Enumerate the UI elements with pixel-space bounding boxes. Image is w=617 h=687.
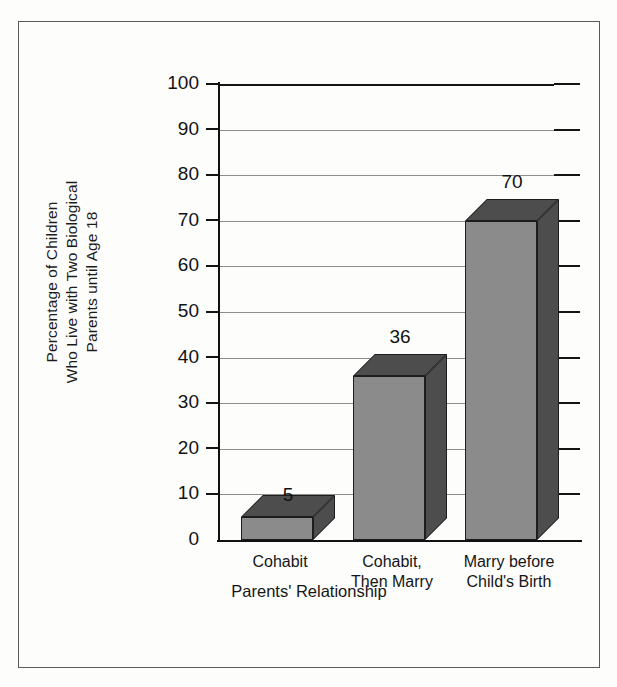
y-tick-label-60: 60 <box>178 254 199 276</box>
bar-side-face <box>425 354 447 540</box>
x-axis-line <box>217 540 582 542</box>
bar-front-face <box>241 517 313 540</box>
x-category-line: Cohabit <box>225 552 335 572</box>
chart-frame: Percentage of Children Who Live with Two… <box>18 21 600 668</box>
y-tick-label-30: 30 <box>178 391 199 413</box>
gridline <box>219 84 554 86</box>
chart-page: Percentage of Children Who Live with Two… <box>0 0 617 687</box>
bar-marry-before-childs-birth[interactable] <box>465 221 537 540</box>
bar-value-label-marry-before-childs-birth: 70 <box>465 171 559 193</box>
y-tick-label-70: 70 <box>178 209 199 231</box>
y-tick-label-0: 0 <box>188 528 199 550</box>
y-tick-mark-right <box>554 129 580 131</box>
y-tick-label-90: 90 <box>178 118 199 140</box>
x-category-label-cohabit: Cohabit <box>225 552 335 572</box>
x-category-line: Cohabit, <box>337 552 447 572</box>
bar-value-label-cohabit-then-marry: 36 <box>353 326 447 348</box>
bar-side-face <box>537 199 559 540</box>
y-tick-mark-right <box>554 83 580 85</box>
y-axis-title-line-2: Who Live with Two Biological <box>62 181 82 383</box>
y-axis-title-line-1: Percentage of Children <box>42 202 62 363</box>
y-tick-label-10: 10 <box>178 482 199 504</box>
y-tick-label-20: 20 <box>178 437 199 459</box>
y-tick-label-100: 100 <box>167 72 199 94</box>
plot-area: 100 90 80 70 <box>219 84 554 540</box>
y-axis-line <box>218 82 220 542</box>
bar-front-face <box>465 221 537 540</box>
bar-cohabit[interactable] <box>241 517 313 540</box>
y-tick-label-80: 80 <box>178 163 199 185</box>
bar-value-label-cohabit: 5 <box>241 484 335 506</box>
bar-cohabit-then-marry[interactable] <box>353 376 425 540</box>
bar-front-face <box>353 376 425 540</box>
gridline <box>219 130 554 131</box>
y-axis-title: Percentage of Children Who Live with Two… <box>34 112 110 452</box>
x-category-line: Marry before <box>449 552 569 572</box>
y-tick-label-50: 50 <box>178 300 199 322</box>
x-axis-title: Parents' Relationship <box>19 582 599 601</box>
y-axis-title-line-3: Parents until Age 18 <box>82 212 102 353</box>
y-tick-label-40: 40 <box>178 346 199 368</box>
